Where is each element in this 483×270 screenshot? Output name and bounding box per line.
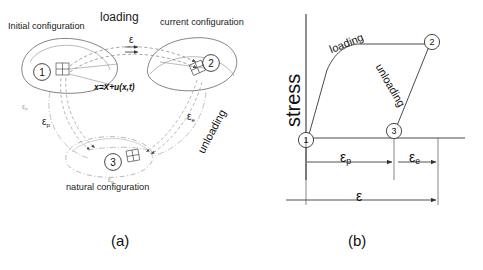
elastic-strain-subscript-b: e bbox=[415, 156, 420, 166]
loading-curve bbox=[308, 44, 430, 138]
node-label-3-b: 3 bbox=[388, 127, 400, 136]
caption-panel-a: (a) bbox=[111, 233, 129, 248]
figure-root: Initial configuration current configurat… bbox=[0, 0, 483, 270]
elastic-strain-label-b: εe bbox=[409, 150, 420, 166]
node-label-2-b: 2 bbox=[426, 38, 438, 47]
total-strain-symbol-b: ε bbox=[356, 188, 362, 204]
y-axis-title: stress bbox=[283, 74, 303, 127]
dimension-tick-lines bbox=[306, 138, 438, 205]
node-label-1-b: 1 bbox=[300, 136, 312, 145]
panel-b-graphics bbox=[0, 0, 483, 270]
plastic-strain-label-b: εp bbox=[340, 150, 351, 166]
caption-panel-b: (b) bbox=[348, 233, 366, 248]
plastic-strain-subscript-b: p bbox=[346, 156, 351, 166]
total-strain-label-b: ε bbox=[356, 189, 362, 203]
